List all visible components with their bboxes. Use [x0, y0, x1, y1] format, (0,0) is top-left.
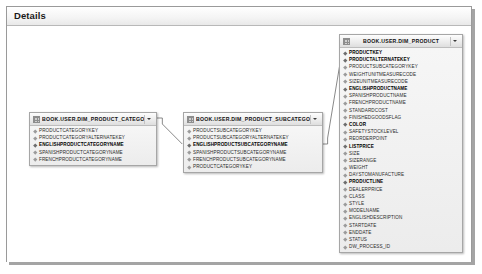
entity-title: BOOK.USER.DIM_PRODUCT_SUBCATEGORY [196, 115, 310, 123]
field-marker-icon [187, 165, 191, 169]
field-marker-icon [187, 150, 191, 154]
field-row[interactable]: STARTDATE [340, 222, 462, 229]
chevron-down-icon[interactable] [310, 115, 319, 124]
entity-field-list: PRODUCTSUBCATEGORYKEY PRODUCTSUBCATEGORY… [184, 126, 322, 172]
field-name: REORDERPOINT [349, 135, 387, 142]
field-row[interactable]: PRODUCTLINE [340, 178, 462, 185]
relationship-line-subcategory-product [322, 66, 340, 144]
field-marker-icon [343, 122, 347, 126]
field-marker-icon [343, 230, 347, 234]
field-row[interactable]: ENGLISHPRODUCTSUBCATEGORYNAME [184, 141, 322, 148]
field-row[interactable]: STYLE [340, 200, 462, 207]
field-row[interactable]: ENGLISHDESCRIPTION [340, 214, 462, 221]
field-row[interactable]: DW_PROCESS_ID [340, 243, 462, 250]
field-name: LISTPRICE [349, 143, 374, 150]
page-title: Details [14, 10, 46, 21]
field-row[interactable]: PRODUCTKEY [340, 49, 462, 56]
field-row[interactable]: PRODUCTCATEGORYALTERNATEKEY [30, 134, 156, 141]
field-row[interactable]: ENGLISHPRODUCTNAME [340, 85, 462, 92]
panel-titlebar: Details [7, 7, 471, 26]
field-row[interactable]: PRODUCTALTERNATEKEY [340, 56, 462, 63]
field-marker-icon [343, 187, 347, 191]
field-row[interactable]: SAFETYSTOCKLEVEL [340, 128, 462, 135]
field-name: PRODUCTCATEGORYKEY [193, 163, 252, 170]
field-marker-icon [33, 136, 37, 140]
field-name: DAYSTOMANUFACTURE [349, 171, 404, 178]
field-name: DW_PROCESS_ID [349, 243, 390, 250]
field-name: PRODUCTSUBCATEGORYKEY [193, 127, 262, 134]
field-name: PRODUCTCATEGORYKEY [39, 127, 98, 134]
field-row[interactable]: PRODUCTSUBCATEGORYALTERNATEKEY [184, 134, 322, 141]
field-row[interactable]: REORDERPOINT [340, 135, 462, 142]
field-marker-icon [33, 157, 37, 161]
field-row[interactable]: SIZE [340, 150, 462, 157]
field-name: PRODUCTCATEGORYALTERNATEKEY [39, 134, 125, 141]
field-row[interactable]: SIZERANGE [340, 157, 462, 164]
field-marker-icon [343, 87, 347, 91]
field-row[interactable]: COLOR [340, 121, 462, 128]
field-row[interactable]: DAYSTOMANUFACTURE [340, 171, 462, 178]
entity-header[interactable]: BOOK.USER.DIM_PRODUCT_SUBCATEGORY [184, 113, 322, 126]
field-row[interactable]: MODELNAME [340, 207, 462, 214]
field-marker-icon [343, 173, 347, 177]
field-marker-icon [187, 136, 191, 140]
field-marker-icon [343, 65, 347, 69]
field-name: PRODUCTALTERNATEKEY [349, 56, 410, 63]
field-row[interactable]: PRODUCTSUBCATEGORYKEY [340, 63, 462, 70]
field-marker-icon [343, 166, 347, 170]
field-marker-icon [343, 194, 347, 198]
entity-dim-product-category[interactable]: BOOK.USER.DIM_PRODUCT_CATEGORY PRODUCTCA… [29, 112, 157, 166]
field-marker-icon [343, 216, 347, 220]
field-row[interactable]: PRODUCTCATEGORYKEY [184, 163, 322, 170]
field-name: PRODUCTKEY [349, 49, 382, 56]
entity-dim-product[interactable]: BOOK.USER.DIM_PRODUCT PRODUCTKEYPRODUCTA… [339, 34, 463, 253]
field-marker-icon [343, 51, 347, 55]
field-marker-icon [343, 202, 347, 206]
grid-icon [187, 116, 194, 123]
field-name: FINISHEDGOODSFLAG [349, 114, 401, 121]
field-name: DEALERPRICE [349, 186, 383, 193]
chevron-down-icon[interactable] [144, 115, 153, 124]
field-row[interactable]: ENDDATE [340, 229, 462, 236]
field-name: ENGLISHDESCRIPTION [349, 214, 402, 221]
chevron-down-icon[interactable] [450, 37, 459, 46]
field-marker-icon [33, 150, 37, 154]
field-name: SPANISHPRODUCTNAME [349, 92, 407, 99]
field-name: SIZEUNITMEASURECODE [349, 78, 408, 85]
field-row[interactable]: FINISHEDGOODSFLAG [340, 114, 462, 121]
entity-header[interactable]: BOOK.USER.DIM_PRODUCT_CATEGORY [30, 113, 156, 126]
field-name: FRENCHPRODUCTNAME [349, 99, 406, 106]
field-row[interactable]: PRODUCTCATEGORYKEY [30, 127, 156, 134]
field-row[interactable]: CLASS [340, 193, 462, 200]
field-name: ENGLISHPRODUCTCATEGORYNAME [39, 141, 124, 148]
field-row[interactable]: DEALERPRICE [340, 186, 462, 193]
field-row[interactable]: FRENCHPRODUCTSUBCATEGORYNAME [184, 156, 322, 163]
field-name: WEIGHTUNITMEASURECODE [349, 71, 416, 78]
field-marker-icon [187, 143, 191, 147]
field-row[interactable]: WEIGHT [340, 164, 462, 171]
field-marker-icon [33, 143, 37, 147]
field-row[interactable]: LISTPRICE [340, 142, 462, 149]
field-row[interactable]: PRODUCTSUBCATEGORYKEY [184, 127, 322, 134]
entity-title: BOOK.USER.DIM_PRODUCT [352, 37, 450, 45]
diagram-canvas[interactable]: BOOK.USER.DIM_PRODUCT_CATEGORY PRODUCTCA… [7, 26, 471, 262]
field-marker-icon [343, 180, 347, 184]
entity-header[interactable]: BOOK.USER.DIM_PRODUCT [340, 35, 462, 48]
field-row[interactable]: FRENCHPRODUCTCATEGORYNAME [30, 156, 156, 163]
field-row[interactable]: SPANISHPRODUCTCATEGORYNAME [30, 149, 156, 156]
field-row[interactable]: WEIGHTUNITMEASURECODE [340, 71, 462, 78]
field-row[interactable]: STATUS [340, 236, 462, 243]
field-marker-icon [187, 157, 191, 161]
entity-field-list: PRODUCTCATEGORYKEY PRODUCTCATEGORYALTERN… [30, 126, 156, 165]
field-row[interactable]: SPANISHPRODUCTSUBCATEGORYNAME [184, 149, 322, 156]
field-marker-icon [343, 115, 347, 119]
grid-icon [33, 116, 40, 123]
field-name: FRENCHPRODUCTCATEGORYNAME [39, 156, 122, 163]
field-name: SIZE [349, 150, 360, 157]
entity-dim-product-subcategory[interactable]: BOOK.USER.DIM_PRODUCT_SUBCATEGORY PRODUC… [183, 112, 323, 173]
field-row[interactable]: FRENCHPRODUCTNAME [340, 99, 462, 106]
field-row[interactable]: STANDARDCOST [340, 107, 462, 114]
field-row[interactable]: ENGLISHPRODUCTCATEGORYNAME [30, 141, 156, 148]
field-row[interactable]: SIZEUNITMEASURECODE [340, 78, 462, 85]
field-row[interactable]: SPANISHPRODUCTNAME [340, 92, 462, 99]
